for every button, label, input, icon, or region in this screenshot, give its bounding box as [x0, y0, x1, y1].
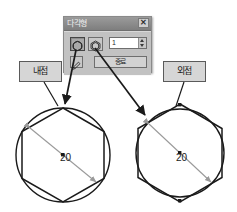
polygon-dialog[interactable]: 다각형 ✕ 1 — [63, 16, 152, 73]
screenshot-root: 다각형 ✕ 1 — [0, 0, 237, 212]
exit-button[interactable]: 종료 — [94, 56, 147, 68]
close-icon[interactable]: ✕ — [138, 18, 149, 28]
pencil-glyph — [71, 61, 82, 71]
polygon-inscribed-in-circle-icon[interactable] — [70, 37, 85, 51]
spinner-arrows[interactable] — [138, 38, 146, 48]
dialog-titlebar[interactable]: 다각형 ✕ — [64, 17, 151, 31]
sides-stepper[interactable]: 1 — [109, 37, 147, 49]
left-dimension-label: 20 — [60, 152, 71, 163]
sides-value[interactable]: 1 — [112, 38, 116, 48]
dialog-title: 다각형 — [67, 18, 87, 29]
dialog-body: 1 종료 — [64, 31, 151, 75]
circle-inscribed-in-polygon-icon[interactable] — [88, 37, 103, 51]
right-top-marker — [178, 103, 181, 106]
right-bottom-marker — [178, 199, 181, 202]
right-dimension-label: 20 — [176, 152, 187, 163]
chevron-up-icon[interactable] — [140, 39, 144, 42]
circumscribed-glyph — [89, 40, 102, 52]
callout-label-inscribed: 내접 — [19, 61, 62, 82]
chevron-down-icon[interactable] — [140, 44, 144, 47]
callout-label-circumscribed: 외접 — [163, 61, 206, 82]
pencil-icon[interactable] — [70, 56, 83, 68]
inscribed-glyph — [71, 40, 84, 52]
